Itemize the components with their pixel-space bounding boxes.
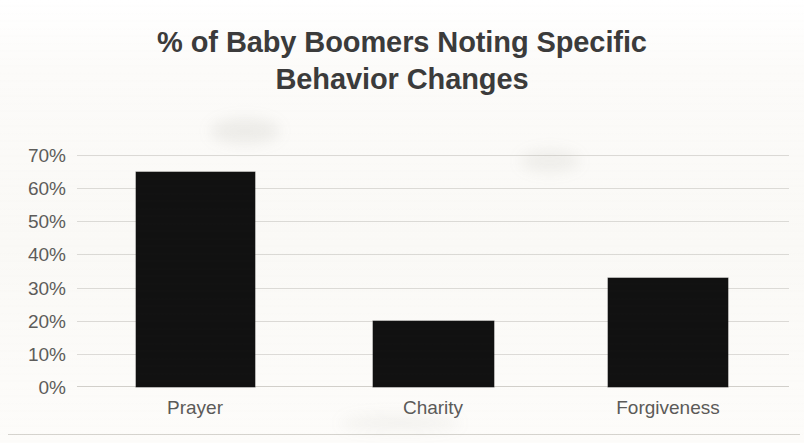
y-axis-tick: 60%: [28, 179, 66, 198]
bar-charity[interactable]: [373, 321, 494, 387]
y-axis-tick: 50%: [28, 212, 66, 231]
y-axis: 70% 60% 50% 40% 30% 20% 10% 0%: [6, 155, 66, 387]
plot-area: [77, 155, 789, 387]
chart-canvas: % of Baby Boomers Noting Specific Behavi…: [0, 0, 804, 443]
y-axis-tick: 10%: [28, 344, 66, 363]
x-axis: Prayer Charity Forgiveness: [77, 396, 789, 426]
chart-title-line-2: Behavior Changes: [0, 61, 804, 98]
gridline: [77, 155, 789, 156]
scan-blotch: [210, 118, 280, 144]
y-axis-tick: 70%: [28, 146, 66, 165]
y-axis-tick: 0%: [39, 378, 66, 397]
chart-title-line-1: % of Baby Boomers Noting Specific: [0, 24, 804, 61]
page-bottom-rule: [8, 434, 800, 435]
y-axis-tick: 30%: [28, 278, 66, 297]
bar-forgiveness[interactable]: [608, 278, 728, 387]
y-axis-tick: 20%: [28, 311, 66, 330]
x-axis-label-forgiveness: Forgiveness: [616, 396, 720, 420]
bar-prayer[interactable]: [136, 172, 255, 387]
x-axis-label-charity: Charity: [403, 396, 463, 420]
chart-title: % of Baby Boomers Noting Specific Behavi…: [0, 24, 804, 98]
y-axis-tick: 40%: [28, 245, 66, 264]
x-axis-label-prayer: Prayer: [167, 396, 223, 420]
